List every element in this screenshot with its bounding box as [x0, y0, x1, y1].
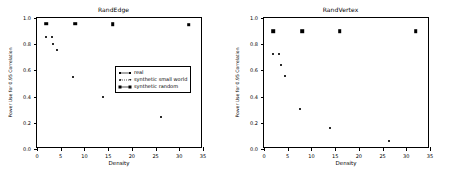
x-tick-label: 25	[379, 153, 385, 159]
x-tick	[430, 147, 431, 151]
figure-container: RandEdge 051015202530350.00.20.40.60.81.…	[0, 0, 454, 175]
y-tick-label: 0.2	[23, 120, 31, 126]
data-point	[278, 53, 280, 55]
x-tick	[359, 147, 360, 151]
chart-title-right: RandVertex	[227, 6, 454, 13]
y-tick	[261, 70, 265, 71]
data-point	[329, 127, 331, 129]
data-point	[45, 22, 49, 26]
data-point	[272, 29, 276, 33]
x-tick-label: 10	[81, 153, 87, 159]
data-point	[272, 53, 274, 55]
y-tick	[261, 44, 265, 45]
chart-panel-randvertex: RandVertex 051015202530350.00.20.40.60.8…	[227, 0, 454, 175]
y-tick-label: 0.8	[23, 41, 31, 47]
data-point	[73, 22, 77, 26]
data-point	[102, 96, 104, 98]
x-tick	[37, 147, 38, 151]
x-tick-label: 35	[200, 153, 206, 159]
yaxis-label-right: Power Use for 0.95 Correlation	[235, 17, 245, 148]
y-tick-label: 0.6	[250, 67, 258, 73]
y-tick-label: 0.0	[250, 146, 258, 152]
y-tick	[34, 70, 38, 71]
data-point	[338, 30, 342, 34]
x-tick-label: 0	[262, 153, 265, 159]
y-tick-label: 0.8	[250, 41, 258, 47]
x-tick	[156, 147, 157, 151]
legend-marker-icon	[118, 83, 132, 90]
data-point	[388, 140, 390, 142]
y-tick	[261, 97, 265, 98]
legend-item: real	[118, 69, 187, 76]
data-point	[300, 29, 304, 33]
yaxis-label-left: Power Use for 0.95 Correlation	[8, 17, 18, 148]
y-tick	[261, 18, 265, 19]
data-point	[56, 49, 58, 51]
y-tick	[34, 123, 38, 124]
x-tick	[406, 147, 407, 151]
plot-area-right: 051015202530350.00.20.40.60.81.0	[264, 18, 428, 147]
xaxis-label-left: Density	[36, 160, 202, 166]
x-tick-label: 15	[105, 153, 111, 159]
x-tick	[132, 147, 133, 151]
legend-marker-icon	[118, 76, 132, 83]
x-tick-label: 20	[356, 153, 362, 159]
x-tick	[288, 147, 289, 151]
x-tick	[264, 147, 265, 151]
y-tick	[261, 149, 265, 150]
x-tick-label: 15	[332, 153, 338, 159]
y-tick-label: 0.2	[250, 120, 258, 126]
data-point	[284, 75, 286, 77]
legend-marker-icon	[118, 69, 132, 76]
y-tick	[34, 97, 38, 98]
y-tick	[34, 44, 38, 45]
data-point	[160, 116, 162, 118]
y-tick	[261, 123, 265, 124]
y-tick	[34, 149, 38, 150]
legend-label: synthetic small world	[134, 76, 187, 83]
x-tick-label: 5	[286, 153, 289, 159]
data-point	[187, 23, 191, 27]
legend-item: synthetic random	[118, 83, 187, 90]
y-tick-label: 0.0	[23, 146, 31, 152]
x-tick-label: 30	[403, 153, 409, 159]
x-tick	[108, 147, 109, 151]
data-point	[51, 36, 53, 38]
data-point	[280, 64, 282, 66]
legend-item: synthetic small world	[118, 76, 187, 83]
chart-panel-randedge: RandEdge 051015202530350.00.20.40.60.81.…	[0, 0, 227, 175]
x-tick-label: 35	[427, 153, 433, 159]
data-point	[72, 76, 74, 78]
xaxis-label-right: Density	[263, 160, 429, 166]
chart-title-left: RandEdge	[0, 6, 227, 13]
x-tick	[61, 147, 62, 151]
data-point	[52, 43, 54, 45]
axes-right: 051015202530350.00.20.40.60.81.0	[263, 17, 429, 148]
data-point	[111, 22, 115, 26]
legend-label: real	[134, 69, 143, 76]
data-point	[414, 29, 418, 33]
x-tick-label: 25	[152, 153, 158, 159]
x-tick-label: 10	[308, 153, 314, 159]
x-tick	[311, 147, 312, 151]
data-point	[299, 108, 301, 110]
x-tick	[203, 147, 204, 151]
y-tick	[34, 18, 38, 19]
x-tick-label: 30	[176, 153, 182, 159]
y-tick-label: 1.0	[250, 15, 258, 21]
axes-left: 051015202530350.00.20.40.60.81.0 realsyn…	[36, 17, 202, 148]
x-tick-label: 5	[59, 153, 62, 159]
x-tick-label: 20	[129, 153, 135, 159]
y-tick-label: 0.6	[23, 67, 31, 73]
x-tick-label: 0	[35, 153, 38, 159]
y-tick-label: 1.0	[23, 15, 31, 21]
y-tick-label: 0.4	[250, 94, 258, 100]
x-tick	[335, 147, 336, 151]
legend-label: synthetic random	[134, 83, 178, 90]
x-tick	[179, 147, 180, 151]
y-tick-label: 0.4	[23, 94, 31, 100]
legend-box: realsynthetic small worldsynthetic rando…	[115, 66, 191, 93]
x-tick	[84, 147, 85, 151]
data-point	[45, 36, 47, 38]
x-tick	[383, 147, 384, 151]
